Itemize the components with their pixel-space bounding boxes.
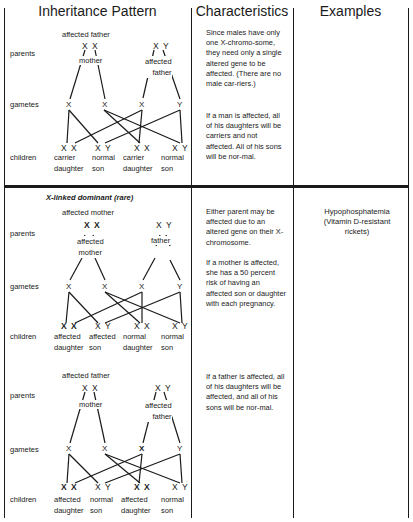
s1-parent2-genotype: X Y	[153, 41, 170, 51]
s1-child-4-label: normal son	[161, 152, 184, 174]
s1-parent1-label: mother	[79, 56, 102, 65]
s2-parent2-label: father	[151, 236, 170, 245]
s1-characteristics-2: If a man is affected, all of his daughte…	[206, 111, 286, 162]
s1-child-2-label: normal son	[92, 152, 115, 174]
s3-child-4-label: normal son	[161, 494, 184, 516]
s1-gamete-4: Y	[177, 100, 182, 109]
s1-parent2-label: affected father	[145, 56, 172, 78]
s2-child-3-genotype: X X	[134, 321, 151, 331]
s3-child-1-genotype: X X	[61, 482, 78, 492]
s3-gamete-4: Y	[177, 444, 182, 453]
s3-gamete-3: X	[139, 444, 144, 453]
s3-child-2-label: normal son	[90, 494, 113, 516]
s3-child-4-genotype: X Y	[172, 482, 189, 492]
row-label-gametes-3: gametes	[10, 445, 39, 454]
s2-parent2-genotype: X Y	[156, 220, 173, 230]
s2-example: Hypophosphatemia (Vitamin D-resistant ri…	[312, 207, 402, 237]
s2-child-2-genotype: X Y	[95, 321, 112, 331]
row-label-parents-2: parents	[10, 229, 35, 238]
s1-child-1-label: carrier daughter	[54, 152, 84, 174]
s2-caption: affected mother	[62, 208, 114, 217]
s2-gamete-2: X	[102, 282, 107, 291]
s3-characteristics-1: If a father is affected, all of his daug…	[206, 372, 286, 413]
s2-title: X-linked dominant (rare)	[46, 193, 133, 202]
row-label-parents: parents	[10, 49, 35, 58]
s1-caption: affected father	[62, 30, 110, 39]
row-label-children-2: children	[10, 332, 36, 341]
s3-gamete-1: X	[66, 444, 71, 453]
s2-characteristics-2: If a mother is affected, she has a 50 pe…	[206, 258, 286, 309]
s3-gamete-2: X	[102, 444, 107, 453]
s2-child-1-label: affected daughter	[54, 331, 84, 353]
s3-parent2-label: affected father	[145, 400, 172, 422]
s1-gamete-3: X	[139, 100, 144, 109]
s2-gamete-3: X	[139, 282, 144, 291]
s2-characteristics-1: Either parent may be affected due to an …	[206, 207, 286, 248]
s1-gamete-2: X	[102, 100, 107, 109]
row-label-gametes-2: gametes	[10, 282, 39, 291]
row-label-children-3: children	[10, 495, 36, 504]
s3-child-3-genotype: X X	[134, 482, 151, 492]
s2-parent1-label: affected mother	[77, 236, 104, 258]
s2-parent1-genotype: X X	[84, 220, 101, 230]
s3-caption: affected father	[62, 371, 110, 380]
s2-child-4-label: normal son	[161, 331, 184, 353]
s2-child-1-genotype: X X	[61, 321, 78, 331]
s3-child-3-label: affected daughter	[121, 494, 151, 516]
s3-child-1-label: affected daughter	[54, 494, 84, 516]
row-label-parents-3: parents	[10, 391, 35, 400]
row-label-gametes: gametes	[10, 100, 39, 109]
s2-child-4-genotype: X Y	[172, 321, 189, 331]
s2-child-2-label: affected son	[89, 331, 116, 353]
s1-gamete-1: X	[66, 100, 71, 109]
s1-parent1-genotype: X X	[82, 41, 99, 51]
s2-gamete-4: Y	[177, 282, 182, 291]
s3-parent2-genotype: X Y	[155, 383, 172, 393]
s3-parent1-genotype: X X	[82, 383, 99, 393]
s2-gamete-1: X	[66, 282, 71, 291]
s1-characteristics-1: Since males have only one X-chromo-some,…	[206, 28, 286, 89]
s3-parent1-label: mother	[79, 400, 102, 409]
s3-child-2-genotype: X Y	[95, 482, 112, 492]
s2-child-3-label: normal daughter	[123, 331, 153, 353]
s1-child-3-label: carrier daughter	[123, 152, 153, 174]
row-label-children: children	[10, 153, 36, 162]
